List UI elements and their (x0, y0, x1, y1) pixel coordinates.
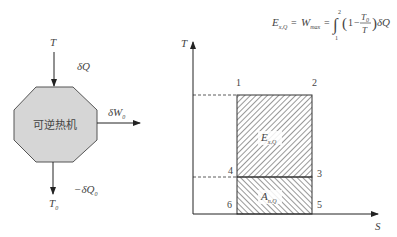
source-temperature: T (50, 36, 57, 48)
diagram-canvas: Ex,Q = Wmax = ∫ 2 1 ( 1 − T0 T ) δQ T δQ… (0, 0, 397, 237)
heat-out-label: −δQ0 (74, 183, 97, 197)
frac-numerator: T0 (361, 12, 369, 23)
frac-denominator: T (362, 25, 368, 35)
point-1: 1 (236, 77, 241, 88)
heat-in-label: δQ (77, 60, 90, 72)
sink-temperature: T0 (49, 197, 58, 211)
ts-diagram: T S 1 2 3 4 5 6 Ex,Q An,Q (181, 37, 381, 232)
formula-equals-2: = (324, 17, 330, 28)
integral-sign: ∫ (332, 15, 339, 35)
formula-lhs: Ex,Q (271, 16, 288, 30)
point-5: 5 (317, 199, 322, 210)
work-out-label: δW0 (108, 106, 125, 120)
point-4: 4 (228, 165, 233, 176)
heat-engine-schematic: T δQ 可逆热机 δW0 −δQ0 T0 (14, 36, 140, 211)
engine-label: 可逆热机 (33, 118, 77, 132)
formula-equals-1: = (291, 17, 297, 28)
formula-minus: − (354, 17, 360, 28)
formula-one: 1 (348, 17, 353, 28)
paren-open: ( (342, 15, 347, 32)
formula-wmax: Wmax (301, 16, 321, 30)
integral-upper: 2 (338, 9, 341, 15)
point-6: 6 (227, 199, 232, 210)
exergy-formula: Ex,Q = Wmax = ∫ 2 1 ( 1 − T0 T ) δQ (271, 9, 390, 41)
s-axis-label: S (375, 220, 381, 232)
integral-lower: 1 (335, 35, 338, 41)
t-axis-label: T (181, 37, 188, 49)
point-2: 2 (312, 77, 317, 88)
formula-dq: δQ (377, 16, 390, 28)
point-3: 3 (317, 168, 322, 179)
